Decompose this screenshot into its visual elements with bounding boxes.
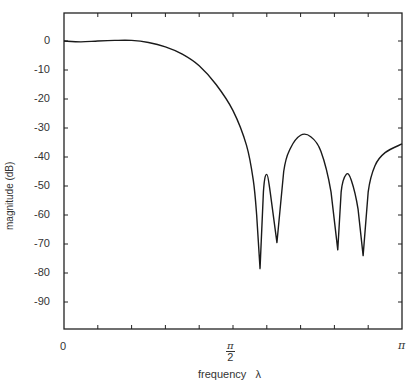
- x-axis-label: frequency λ: [198, 368, 261, 380]
- y-tick-label: 0: [20, 34, 50, 46]
- x-tick-label-pi: π: [398, 339, 405, 352]
- y-tick-label: -40: [20, 150, 50, 162]
- axis-ticks: [64, 13, 402, 329]
- y-tick-label: -10: [20, 63, 50, 75]
- magnitude-curve: [64, 40, 402, 268]
- y-tick-label: -50: [20, 179, 50, 191]
- y-tick-label: -30: [20, 121, 50, 133]
- y-axis-label: magnitude (dB): [4, 162, 15, 230]
- x-tick-label-half-pi: π 2: [226, 340, 235, 363]
- half-pi-denominator: 2: [226, 352, 235, 363]
- magnitude-response-chart: [0, 0, 416, 387]
- y-tick-label: -20: [20, 92, 50, 104]
- x-tick-label-zero: 0: [60, 340, 66, 352]
- y-tick-label: -60: [20, 208, 50, 220]
- y-tick-label: -70: [20, 237, 50, 249]
- plot-frame: [64, 13, 402, 329]
- y-tick-label: -80: [20, 266, 50, 278]
- y-tick-label: -90: [20, 295, 50, 307]
